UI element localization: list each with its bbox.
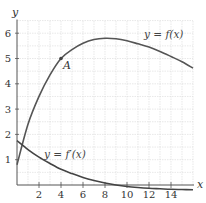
x-tick-label: 10: [121, 189, 134, 200]
x-tick-label: 4: [58, 189, 64, 200]
y-axis-label: y: [11, 6, 19, 19]
x-tick-label: 14: [165, 189, 178, 200]
y-tick-label: 3: [5, 104, 11, 115]
x-tick-label: 6: [80, 189, 86, 200]
y-tick-label: 2: [5, 129, 11, 140]
point-a-label: A: [62, 59, 71, 72]
chart: 2468101214123456 A y = f(x) y = f′(x) x …: [0, 0, 206, 203]
f-curve-label: y = f(x): [143, 28, 183, 40]
y-tick-label: 1: [5, 154, 11, 165]
y-tick-label: 6: [5, 28, 11, 39]
fprime-curve-label: y = f′(x): [43, 148, 86, 160]
x-tick-label: 12: [143, 189, 156, 200]
y-tick-label: 5: [5, 53, 11, 64]
y-tick-label: 4: [5, 78, 11, 89]
ticks: 2468101214123456: [5, 28, 178, 200]
x-tick-label: 8: [102, 189, 108, 200]
x-axis-label: x: [197, 178, 204, 191]
x-tick-label: 2: [36, 189, 42, 200]
